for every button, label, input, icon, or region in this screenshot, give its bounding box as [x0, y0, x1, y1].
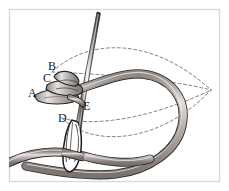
label-A: A — [28, 86, 37, 100]
label-E: E — [83, 99, 90, 113]
label-D: D — [58, 111, 67, 125]
stitch-diagram-figure: A B C D E — [0, 0, 229, 191]
diagram-canvas: A B C D E — [0, 0, 229, 191]
label-C: C — [43, 71, 51, 85]
thread-over-eye — [62, 152, 84, 157]
